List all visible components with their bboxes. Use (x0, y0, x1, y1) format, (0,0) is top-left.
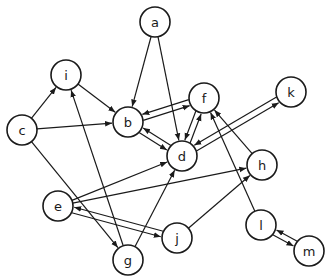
edge-line (72, 162, 167, 200)
node-label: i (64, 68, 68, 83)
node-label: d (178, 149, 186, 164)
edge-f-to-b (142, 100, 188, 115)
node-i: i (51, 60, 81, 90)
node-j: j (162, 223, 192, 253)
edge-j-to-h (188, 175, 249, 228)
edge-line (276, 230, 297, 241)
edge-e-to-j (72, 213, 161, 237)
edge-e-to-d (72, 162, 167, 200)
edge-f-to-d (185, 111, 196, 140)
node-l: l (246, 210, 276, 240)
edge-line (37, 123, 112, 129)
node-label: h (258, 158, 266, 173)
edge-line (78, 84, 115, 112)
node-label: k (287, 85, 295, 100)
node-a: a (140, 7, 170, 37)
edge-i-to-b (78, 84, 115, 112)
edge-line (188, 175, 249, 228)
edge-line (132, 36, 151, 106)
edge-line (139, 133, 167, 150)
edge-line (31, 87, 56, 118)
node-g: g (113, 245, 143, 275)
edge-line (72, 213, 161, 237)
node-f: f (189, 83, 219, 113)
edge-b-to-f (143, 106, 189, 121)
directed-graph: aicbfkdhejglm (0, 0, 332, 280)
edge-d-to-b (143, 128, 171, 145)
node-label: g (124, 253, 132, 268)
edge-j-to-e (74, 207, 163, 231)
edge-line (214, 110, 252, 154)
nodes-layer: aicbfkdhejglm (7, 7, 324, 275)
edge-line (143, 128, 171, 145)
node-label: j (174, 231, 179, 246)
edge-l-to-m (273, 235, 294, 246)
edge-line (142, 100, 188, 115)
edge-a-to-b (132, 36, 151, 106)
edge-line (143, 106, 189, 121)
edge-a-to-d (158, 37, 179, 141)
edge-line (185, 111, 196, 140)
node-k: k (276, 77, 306, 107)
node-label: f (202, 91, 207, 106)
node-e: e (43, 191, 73, 221)
node-d: d (167, 141, 197, 171)
node-label: c (18, 123, 25, 138)
node-label: m (303, 244, 316, 259)
edge-c-to-i (31, 87, 56, 118)
node-label: a (151, 15, 159, 30)
edge-d-to-f (190, 114, 201, 143)
edge-line (74, 207, 163, 231)
edge-h-to-f (214, 110, 252, 154)
node-label: e (54, 199, 62, 214)
node-b: b (113, 107, 143, 137)
node-m: m (294, 236, 324, 266)
node-c: c (7, 115, 37, 145)
edge-c-to-b (37, 123, 112, 129)
node-label: b (124, 115, 132, 130)
edge-line (31, 142, 117, 248)
edge-c-to-g (31, 142, 117, 248)
node-h: h (247, 150, 277, 180)
node-label: l (259, 218, 263, 233)
edge-line (273, 235, 294, 246)
edge-line (190, 114, 201, 143)
edge-b-to-d (139, 133, 167, 150)
edge-m-to-l (276, 230, 297, 241)
edge-line (158, 37, 179, 141)
